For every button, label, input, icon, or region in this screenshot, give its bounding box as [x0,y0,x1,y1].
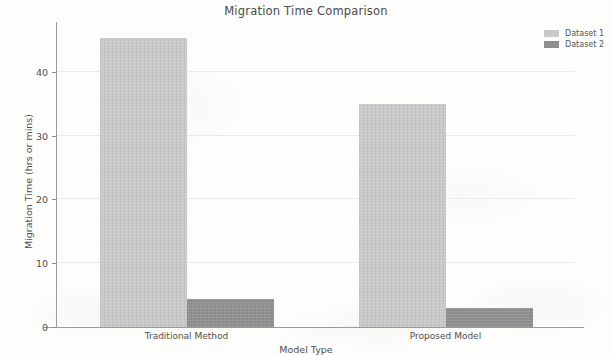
x-tick-label: Proposed Model [410,331,481,341]
y-tick-label: 40 [4,66,48,77]
y-tick-label: 0 [4,322,48,333]
bar [100,38,187,327]
y-axis-line [56,22,57,328]
chart-figure: Migration Time Comparison 010203040 Trad… [0,0,612,355]
legend-swatch [544,30,559,37]
y-tick-mark [52,263,56,264]
x-axis-line [44,327,584,328]
y-tick-mark [52,327,56,328]
bar [359,104,446,327]
legend-item: Dataset 2 [544,39,604,50]
y-tick-mark [52,72,56,73]
x-tick-label: Traditional Method [145,331,228,341]
y-axis-label: Migration Time (hrs or mins) [23,82,34,282]
bar [446,308,533,327]
legend-item: Dataset 1 [544,28,604,39]
bar [187,299,274,327]
plot-area [57,24,575,327]
legend-label: Dataset 2 [565,40,604,49]
chart-legend: Dataset 1Dataset 2 [544,28,604,50]
chart-title: Migration Time Comparison [0,4,612,18]
y-tick-mark [52,136,56,137]
y-tick-mark [52,199,56,200]
legend-swatch [544,41,559,48]
legend-label: Dataset 1 [565,29,604,38]
x-axis-label: Model Type [0,344,612,355]
